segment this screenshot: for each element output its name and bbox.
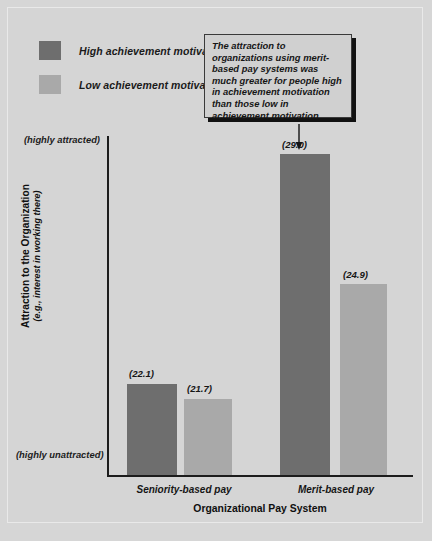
y-axis-bottom-label: (highly unattracted) — [16, 449, 100, 460]
bar-value-merit-low: (24.9) — [343, 269, 368, 280]
bar-value-merit-high: (29.0) — [282, 139, 307, 150]
y-axis-title-sub: (e.g., interest in working there) — [32, 156, 43, 356]
x-axis-line — [107, 475, 413, 477]
figure-frame: High achievement motivation Low achievem… — [7, 7, 423, 523]
legend-item-low: Low achievement motivation — [39, 75, 225, 94]
x-axis-tick-merit: Merit-based pay — [260, 484, 412, 495]
bar-merit-low — [340, 284, 387, 475]
bar-seniority-high — [127, 384, 177, 475]
legend-swatch-low — [39, 75, 61, 94]
x-axis-title: Organizational Pay System — [107, 503, 413, 514]
callout-text: The attraction to organizations using me… — [212, 40, 345, 121]
plot-area: (22.1) (21.7) (29.0) (24.9) — [107, 136, 413, 477]
y-axis-top-label: (highly attracted) — [22, 134, 100, 145]
legend-swatch-high — [39, 41, 61, 60]
legend-item-high: High achievement motivation — [39, 41, 228, 60]
bar-merit-high — [280, 154, 330, 475]
callout-box: The attraction to organizations using me… — [204, 34, 352, 118]
bar-value-seniority-low: (21.7) — [187, 383, 212, 394]
chart-figure: High achievement motivation Low achievem… — [0, 0, 432, 541]
x-axis-tick-seniority: Seniority-based pay — [106, 484, 262, 495]
y-axis-line — [107, 136, 109, 477]
bar-seniority-low — [184, 399, 232, 475]
y-axis-title: Attraction to the Organization (e.g., in… — [20, 156, 50, 356]
bar-value-seniority-high: (22.1) — [129, 368, 154, 379]
y-axis-title-main: Attraction to the Organization — [20, 156, 32, 356]
